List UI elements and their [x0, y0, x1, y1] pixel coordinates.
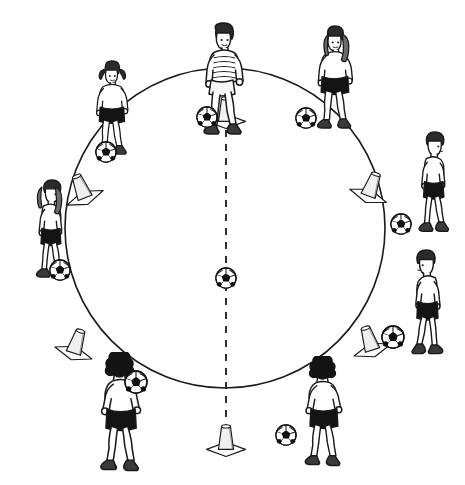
player-soccer-ball [50, 260, 70, 280]
player-soccer-ball [125, 371, 147, 393]
player-soccer-ball [197, 107, 217, 127]
player-soccer-ball [96, 142, 116, 162]
player-soccer-ball [391, 214, 411, 234]
diagram-canvas: Soccer circle dribbling drill [0, 0, 465, 485]
player-soccer-ball [296, 108, 316, 128]
center-ball-layer [216, 268, 236, 288]
center-soccer-ball [216, 268, 236, 288]
player-soccer-ball [382, 326, 404, 348]
soccer-drill-illustration [0, 0, 465, 485]
player-soccer-ball [276, 425, 296, 445]
